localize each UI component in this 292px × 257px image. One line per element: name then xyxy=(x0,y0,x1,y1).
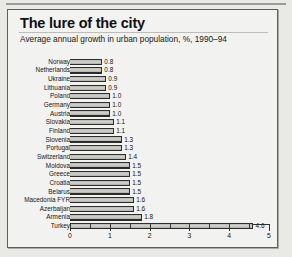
x-axis-tick-label: 2 xyxy=(148,232,152,239)
bar xyxy=(70,85,106,91)
category-label: Slovenia xyxy=(45,136,70,144)
bar xyxy=(70,223,253,229)
category-label: Turkey xyxy=(51,222,70,230)
bar-row: Poland1.0 xyxy=(8,92,279,101)
bar xyxy=(70,188,130,194)
bar-value-label: 1.3 xyxy=(124,136,133,144)
bar xyxy=(70,197,134,203)
x-axis-tick xyxy=(229,224,230,231)
bar-value-label: 0.8 xyxy=(104,58,113,66)
x-axis-tick-label: 1 xyxy=(108,232,112,239)
category-label: Lithuania xyxy=(44,84,70,92)
bar-value-label: 0.8 xyxy=(104,66,113,74)
bar-row: Azerbaijan1.6 xyxy=(8,205,279,214)
bar xyxy=(70,128,114,134)
bar-row: Macedonia FYR1.6 xyxy=(8,196,279,205)
bar-value-label: 0.9 xyxy=(108,75,117,83)
bar-value-label: 4.6 xyxy=(256,222,265,230)
category-label: Belarus xyxy=(48,188,70,196)
x-axis-minor-tick xyxy=(209,224,210,228)
bar xyxy=(70,102,110,108)
category-label: Croatia xyxy=(49,179,70,187)
bar-row: Lithuania0.9 xyxy=(8,83,279,92)
category-label: Poland xyxy=(50,92,70,100)
bar-value-label: 1.8 xyxy=(144,213,153,221)
category-label: Netherlands xyxy=(36,66,70,74)
x-axis-tick-label: 5 xyxy=(267,232,271,239)
x-axis-minor-tick xyxy=(90,224,91,228)
bar-value-label: 1.4 xyxy=(128,153,137,161)
x-axis-tick-label: 4 xyxy=(227,232,231,239)
category-label: Ukraine xyxy=(48,75,70,83)
bar xyxy=(70,154,126,160)
x-axis-tick xyxy=(110,224,111,231)
bar-value-label: 1.5 xyxy=(132,188,141,196)
x-axis-tick-label: 3 xyxy=(188,232,192,239)
bar-plot-area: Norway0.8Netherlands0.8Ukraine0.9Lithuan… xyxy=(8,10,279,249)
x-axis-tick-label: 0 xyxy=(68,232,72,239)
bar-row: Belarus1.5 xyxy=(8,187,279,196)
chart-panel: The lure of the city Average annual grow… xyxy=(7,9,278,248)
bar xyxy=(70,180,130,186)
bar-row: Ukraine0.9 xyxy=(8,75,279,84)
bar-row: Austria1.0 xyxy=(8,109,279,118)
category-label: Austria xyxy=(50,110,70,118)
bar xyxy=(70,214,142,220)
category-label: Slovakia xyxy=(46,118,70,126)
x-axis-minor-tick xyxy=(249,224,250,228)
bar-row: Croatia1.5 xyxy=(8,179,279,188)
bar-row: Netherlands0.8 xyxy=(8,66,279,75)
bar xyxy=(70,145,122,151)
bar xyxy=(70,171,130,177)
bar-value-label: 1.1 xyxy=(116,127,125,135)
bar-row: Norway0.8 xyxy=(8,58,279,67)
bar xyxy=(70,59,102,65)
x-axis-tick xyxy=(150,224,151,231)
category-label: Finland xyxy=(49,127,70,135)
bar-row: Slovenia1.3 xyxy=(8,135,279,144)
bar-value-label: 1.6 xyxy=(136,196,145,204)
bar-row: Armenia1.8 xyxy=(8,213,279,222)
category-label: Macedonia FYR xyxy=(24,196,70,204)
category-label: Germany xyxy=(44,101,70,109)
category-label: Azerbaijan xyxy=(40,205,70,213)
bar-row: Finland1.1 xyxy=(8,127,279,136)
bar-value-label: 1.0 xyxy=(112,110,121,118)
bar-value-label: 1.5 xyxy=(132,162,141,170)
x-axis-minor-tick xyxy=(130,224,131,228)
bar xyxy=(70,119,114,125)
bar xyxy=(70,110,110,116)
category-label: Armenia xyxy=(46,213,70,221)
bar-row: Germany1.0 xyxy=(8,101,279,110)
bar xyxy=(70,67,102,73)
bar-value-label: 1.5 xyxy=(132,179,141,187)
bar-row: Moldova1.5 xyxy=(8,161,279,170)
bar xyxy=(70,76,106,82)
category-label: Greece xyxy=(49,170,70,178)
x-axis-tick xyxy=(269,224,270,231)
bar-value-label: 1.3 xyxy=(124,144,133,152)
x-axis-tick xyxy=(70,224,71,231)
bar-row: Turkey4.6 xyxy=(8,222,279,231)
bar-row: Portugal1.3 xyxy=(8,144,279,153)
x-axis-tick xyxy=(189,224,190,231)
bar-row: Greece1.5 xyxy=(8,170,279,179)
top-rule-divider xyxy=(6,3,286,5)
bar xyxy=(70,93,110,99)
bar xyxy=(70,162,130,168)
bar-value-label: 1.0 xyxy=(112,92,121,100)
category-label: Portugal xyxy=(46,144,70,152)
category-label: Moldova xyxy=(46,162,70,170)
bar-value-label: 1.0 xyxy=(112,101,121,109)
bar xyxy=(70,206,134,212)
bar-value-label: 0.9 xyxy=(108,84,117,92)
bar-row: Slovakia1.1 xyxy=(8,118,279,127)
bar-value-label: 1.5 xyxy=(132,170,141,178)
bar xyxy=(70,136,122,142)
bar-value-label: 1.1 xyxy=(116,118,125,126)
category-label: Switzerland xyxy=(37,153,70,161)
bar-row: Switzerland1.4 xyxy=(8,153,279,162)
x-axis-minor-tick xyxy=(170,224,171,228)
category-label: Norway xyxy=(48,58,70,66)
bar-value-label: 1.6 xyxy=(136,205,145,213)
